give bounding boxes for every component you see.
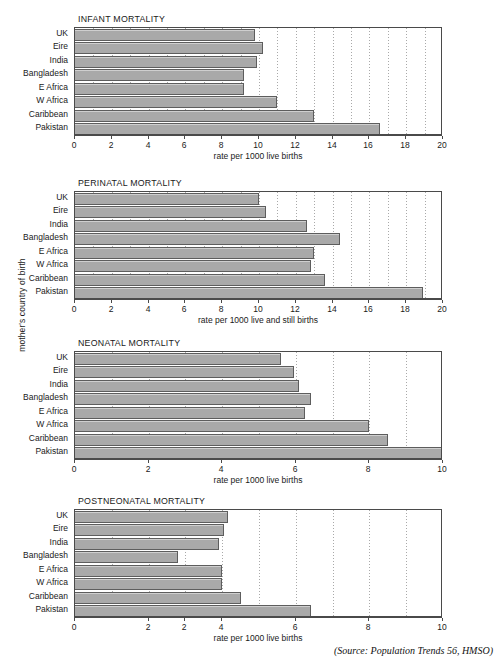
bar-highlight	[75, 97, 276, 98]
x-tick-label: 6	[285, 464, 305, 474]
x-tick-label: 4	[138, 304, 158, 314]
bar-highlight	[75, 593, 240, 594]
gridline	[369, 510, 370, 616]
x-tick-label: 8	[211, 304, 231, 314]
x-tick-mark	[442, 300, 443, 303]
gridline	[388, 28, 389, 134]
gridline	[351, 28, 352, 134]
bar	[75, 110, 314, 122]
x-tick-mark	[258, 136, 259, 139]
x-tick-label: 2	[138, 464, 158, 474]
bar	[75, 407, 305, 419]
x-tick-mark	[332, 136, 333, 139]
bar-highlight	[75, 566, 221, 567]
bar	[75, 247, 314, 259]
chart-title: NEONATAL MORTALITY	[78, 338, 180, 348]
bar-highlight	[75, 525, 223, 526]
gridline	[406, 28, 407, 134]
bar-highlight	[75, 111, 313, 112]
bar	[75, 287, 423, 299]
bar	[75, 123, 380, 135]
x-axis-label: rate per 1000 live births	[74, 151, 442, 161]
x-tick-label: 16	[358, 304, 378, 314]
plot-wrapper	[74, 27, 442, 135]
bar	[75, 83, 244, 95]
bar	[75, 29, 255, 41]
x-tick-mark	[74, 460, 75, 463]
plot-wrapper	[74, 509, 442, 617]
bar-highlight	[75, 234, 339, 235]
category-label: India	[50, 538, 68, 547]
bar-highlight	[75, 408, 304, 409]
x-tick-mark	[184, 618, 185, 621]
gridline	[406, 510, 407, 616]
x-axis-label: rate per 1000 live births	[74, 633, 442, 643]
x-tick-label: 4	[211, 622, 231, 632]
x-tick-label: 0	[64, 140, 84, 150]
gridline	[296, 510, 297, 616]
bar	[75, 605, 311, 617]
x-tick-mark	[295, 460, 296, 463]
x-tick-mark	[74, 618, 75, 621]
bar	[75, 578, 222, 590]
bar-highlight	[75, 261, 310, 262]
x-tick-mark	[111, 136, 112, 139]
x-tick-mark	[368, 300, 369, 303]
bar	[75, 193, 259, 205]
plot-area	[74, 351, 442, 459]
x-tick-mark	[405, 300, 406, 303]
x-tick-mark	[442, 460, 443, 463]
bar	[75, 592, 241, 604]
x-tick-mark	[74, 300, 75, 303]
bar-highlight	[75, 539, 218, 540]
bar	[75, 380, 299, 392]
x-tick-mark	[148, 618, 149, 621]
category-label: India	[50, 56, 68, 65]
x-tick-label: 18	[395, 304, 415, 314]
chart-title: INFANT MORTALITY	[78, 14, 165, 24]
plot-wrapper	[74, 351, 442, 459]
chart-panel-perinatal-mortality: PERINATAL MORTALITY UKEireIndiaBanglades…	[0, 178, 499, 328]
bar	[75, 551, 178, 563]
bar	[75, 366, 294, 378]
x-tick-mark	[295, 618, 296, 621]
x-tick-label: 2	[101, 304, 121, 314]
gridline	[333, 28, 334, 134]
x-axis-ticks: 02468101214161820	[74, 300, 442, 316]
x-tick-mark	[148, 460, 149, 463]
category-label: W Africa	[36, 96, 68, 105]
figure-root: mother's country of birth INFANT MORTALI…	[0, 0, 499, 661]
bar-highlight	[75, 84, 243, 85]
bar	[75, 233, 340, 245]
x-tick-mark	[295, 300, 296, 303]
category-label: Caribbean	[29, 434, 68, 443]
category-label: W Africa	[36, 578, 68, 587]
gridline	[388, 192, 389, 298]
gridline	[369, 192, 370, 298]
x-axis-ticks: 02468101214161820	[74, 136, 442, 152]
bar-highlight	[75, 288, 422, 289]
x-tick-label: 0	[64, 622, 84, 632]
bar	[75, 274, 325, 286]
x-axis-label: rate per 1000 live and still births	[74, 315, 442, 325]
bar-highlight	[75, 248, 313, 249]
x-tick-label: 10	[248, 304, 268, 314]
plot-area	[74, 191, 442, 299]
category-label: E Africa	[39, 83, 68, 92]
bar-highlight	[75, 124, 379, 125]
bar	[75, 42, 263, 54]
bar-highlight	[75, 207, 265, 208]
category-label: W Africa	[36, 420, 68, 429]
x-tick-mark	[368, 618, 369, 621]
x-axis-ticks: 02246810	[74, 618, 442, 634]
category-label: UK	[56, 511, 68, 520]
x-tick-label: 12	[285, 140, 305, 150]
x-tick-label: 2	[174, 622, 194, 632]
category-label: Pakistan	[35, 605, 68, 614]
category-label: E Africa	[39, 247, 68, 256]
bar	[75, 447, 442, 459]
bar-highlight	[75, 552, 177, 553]
bar-highlight	[75, 579, 221, 580]
x-tick-label: 12	[285, 304, 305, 314]
x-tick-label: 14	[322, 304, 342, 314]
